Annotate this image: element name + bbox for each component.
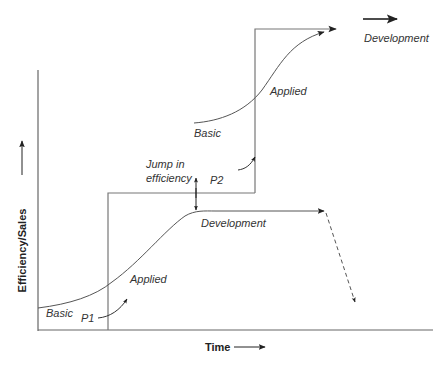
curve-1-development-label: Development (201, 217, 266, 230)
p2-label: P2 (210, 174, 223, 187)
step-1-boundary (108, 193, 255, 330)
y-axis-label: Efficiency/Sales (16, 209, 29, 293)
curve-1-applied-label: Applied (130, 273, 167, 286)
x-axis-label: Time (205, 341, 230, 354)
p1-arrow-icon (98, 299, 127, 318)
step-2-boundary (255, 29, 336, 193)
curve-2-applied-label: Applied (270, 85, 307, 98)
p2-arrow-icon (238, 157, 255, 170)
s-curve-2 (194, 32, 324, 123)
curve-2-basic-label: Basic (194, 127, 221, 140)
decline-dashed-arrow (326, 213, 355, 302)
curve-2-development-label: Development (364, 32, 429, 45)
s-curve-1 (38, 211, 324, 308)
jump-label-line1: Jump in (146, 158, 185, 171)
jump-label-line2: efficiency (146, 172, 192, 185)
curve-1-basic-label: Basic (46, 307, 73, 320)
p1-label: P1 (81, 312, 94, 325)
